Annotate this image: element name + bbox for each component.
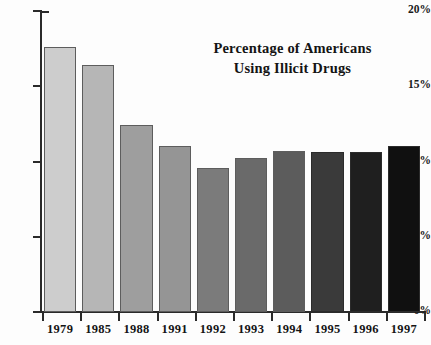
x-axis-tick [233, 313, 235, 321]
y-axis-tick [33, 236, 42, 238]
y-axis-tick [33, 161, 42, 163]
chart-title-line-2: Using Illicit Drugs [185, 58, 400, 78]
y-axis-tick-label: 20% [399, 3, 431, 15]
bar-1995 [311, 152, 343, 312]
y-axis-tick-label: 15% [399, 78, 431, 90]
x-axis-tick [348, 313, 350, 321]
x-axis-tick [195, 313, 197, 321]
bar-1997 [388, 146, 420, 312]
bar-chart: Percentage of Americans Using Illicit Dr… [0, 0, 431, 345]
y-axis-tick [33, 10, 42, 12]
y-axis-tick [33, 311, 42, 313]
x-axis-tick [386, 313, 388, 321]
bar-1979 [44, 47, 76, 312]
bar-1993 [235, 158, 267, 312]
chart-title: Percentage of Americans Using Illicit Dr… [185, 38, 400, 78]
bar-1992 [197, 168, 229, 312]
x-axis-tick [80, 313, 82, 321]
x-axis-tick [271, 313, 273, 321]
x-axis-tick [157, 313, 159, 321]
x-axis-tick [42, 313, 44, 321]
bar-1991 [159, 146, 191, 312]
x-axis-tick-label: 1997 [382, 322, 426, 337]
bar-1994 [273, 151, 305, 312]
bar-1985 [82, 65, 114, 312]
y-axis-tick [33, 85, 42, 87]
chart-title-line-1: Percentage of Americans [185, 38, 400, 58]
x-axis-tick [118, 313, 120, 321]
x-axis-tick [309, 313, 311, 321]
bar-1996 [350, 152, 382, 312]
bar-1988 [120, 125, 152, 312]
x-axis-tick [424, 313, 426, 321]
